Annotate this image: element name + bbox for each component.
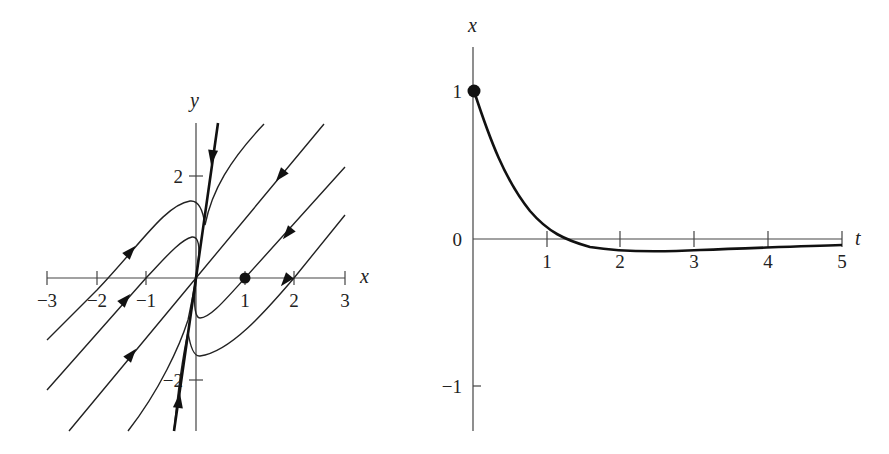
arrow-upright-icon	[117, 291, 134, 308]
x-axis-label: x	[359, 265, 369, 287]
figure: −3 −2 −1 1 2 3 2 −2 x y	[0, 0, 889, 454]
t-tick-label: 3	[689, 251, 699, 272]
y-tick-label: 2	[174, 166, 184, 187]
t-tick-label: 2	[615, 251, 625, 272]
t-axis-label: t	[855, 227, 861, 249]
t-tick-label: 1	[542, 251, 552, 272]
solution-curve	[474, 91, 842, 251]
x-tick-label: 0	[453, 229, 463, 250]
initial-value-marker	[468, 85, 481, 98]
y-axis-label: y	[188, 89, 199, 112]
initial-point-marker	[240, 273, 251, 284]
x-tick-label: −1	[136, 290, 156, 311]
x-tick-label: 3	[340, 290, 350, 311]
time-series-plot: 1 2 3 4 5 1 0 −1 t x	[442, 14, 861, 431]
x-tick-label: −3	[37, 290, 57, 311]
x-tick-label: −1	[442, 376, 462, 397]
t-tick-label: 5	[837, 251, 847, 272]
direction-arrows	[117, 149, 295, 408]
phase-portrait: −3 −2 −1 1 2 3 2 −2 x y	[37, 89, 369, 431]
t-tick-label: 4	[763, 251, 773, 272]
x-axis-label: x	[467, 14, 477, 36]
x-tick-label: 1	[240, 290, 250, 311]
arrow-downleft-icon	[279, 225, 296, 242]
x-tick-label: 2	[289, 290, 299, 311]
x-tick-label: 1	[453, 81, 463, 102]
x-tick-label: −2	[87, 290, 107, 311]
